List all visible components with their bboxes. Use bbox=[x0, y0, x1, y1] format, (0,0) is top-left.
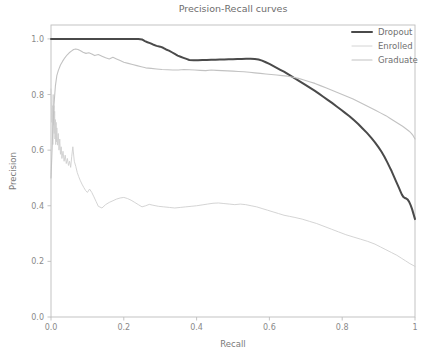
x-tick-label: 0.4 bbox=[190, 323, 203, 332]
plot-frame bbox=[51, 25, 415, 317]
y-tick-label: 0.6 bbox=[31, 146, 44, 155]
curve-graduate bbox=[51, 49, 415, 178]
y-tick-label: 1.0 bbox=[31, 35, 44, 44]
y-tick-label: 0.2 bbox=[31, 257, 44, 266]
chart-canvas: Precision-Recall curves0.00.20.40.60.810… bbox=[0, 0, 424, 353]
y-tick-label: 0.0 bbox=[31, 313, 44, 322]
x-tick-label: 0.6 bbox=[263, 323, 276, 332]
x-tick-label: 1 bbox=[412, 323, 417, 332]
x-tick-label: 0.2 bbox=[117, 323, 130, 332]
x-axis-label: Recall bbox=[220, 339, 245, 349]
curve-enrolled bbox=[51, 89, 415, 266]
chart-title: Precision-Recall curves bbox=[179, 3, 288, 14]
y-tick-label: 0.4 bbox=[31, 202, 44, 211]
legend-label-enrolled: Enrolled bbox=[378, 41, 413, 51]
legend: DropoutEnrolledGraduate bbox=[352, 27, 418, 65]
y-axis-label: Precision bbox=[8, 152, 18, 190]
legend-label-graduate: Graduate bbox=[378, 55, 418, 65]
x-tick-label: 0.0 bbox=[45, 323, 58, 332]
x-tick-label: 0.8 bbox=[336, 323, 349, 332]
curve-dropout bbox=[51, 39, 415, 219]
precision-recall-figure: Precision-Recall curves0.00.20.40.60.810… bbox=[0, 0, 424, 353]
y-tick-label: 0.8 bbox=[31, 91, 44, 100]
legend-label-dropout: Dropout bbox=[378, 27, 413, 37]
